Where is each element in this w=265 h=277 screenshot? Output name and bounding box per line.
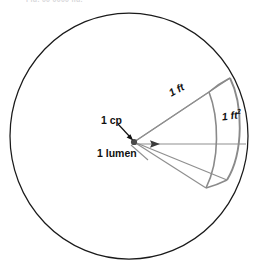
label-area-one-square-foot: 1 ft2 — [221, 108, 242, 122]
label-area-value: 1 ft — [221, 109, 238, 123]
cone-ruling-lower-outer — [134, 142, 227, 180]
label-candlepower: 1 cp — [101, 115, 122, 126]
figure-root: Fig. 00 0000 lig. 1 cp — [0, 0, 265, 277]
label-lumen: 1 lumen — [97, 148, 137, 159]
patch-inner-edge — [206, 92, 217, 188]
label-area-exponent: 2 — [237, 108, 242, 115]
point-source-dot — [131, 139, 137, 145]
patch-outer-edge — [227, 78, 240, 180]
cone-ruling-upper-inner — [134, 92, 209, 142]
cone-ruling-lower — [134, 142, 206, 188]
lumen-diagram-svg — [0, 0, 265, 277]
label-lumen-text: 1 lumen — [97, 147, 137, 159]
